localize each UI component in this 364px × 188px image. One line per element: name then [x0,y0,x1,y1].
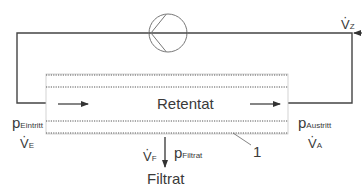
feed-flow-symbol: V [341,18,350,31]
loop-pipe-right [187,33,352,103]
feed-flow-subscript: Z [350,22,355,31]
pump-icon [149,14,187,52]
outlet-flow-symbol: V [308,137,317,150]
feed-flow-label: VZ [341,16,355,32]
loop-pipe-left [17,33,149,103]
permeate-flow-label: VF [143,148,157,164]
retentate-label: Retentat [157,96,214,111]
outlet-pressure-label: pAustritt [298,115,331,131]
permeate-pressure-subscript: Filtrat [182,151,202,160]
membrane-reference-number: 1 [253,144,261,159]
inlet-flow-label: VE [20,135,34,151]
outlet-flow-label: VA [308,135,322,151]
permeate-flow-subscript: F [152,154,157,163]
permeate-flow-symbol: V [143,150,152,163]
permeate-pressure-label: pFiltrat [174,145,202,161]
membrane-leader-line [233,133,251,145]
inlet-flow-subscript: E [29,141,34,150]
outlet-flow-subscript: A [317,141,322,150]
inlet-pressure-label: pEintritt [12,115,43,131]
inlet-flow-symbol: V [20,137,29,150]
filtrate-label: Filtrat [147,171,185,186]
